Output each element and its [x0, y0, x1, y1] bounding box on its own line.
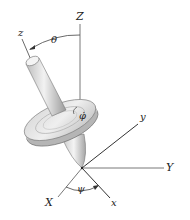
X-axis-label: X	[45, 197, 53, 208]
x-axis	[82, 168, 110, 198]
y-axis-label: y	[140, 112, 146, 122]
gyro-rod	[24, 54, 66, 116]
gyroscope-diagram	[0, 0, 190, 220]
psi-label: ψ	[77, 184, 85, 194]
y-axis	[82, 124, 138, 168]
origin-point	[81, 167, 83, 169]
z-axis-label: z	[18, 28, 23, 38]
Y-axis-label: Y	[166, 162, 173, 173]
x-axis-label: x	[111, 198, 117, 208]
theta-label: θ	[51, 35, 57, 45]
Z-axis-label: Z	[76, 11, 84, 22]
phi-dot-label: φ̇	[79, 111, 86, 121]
